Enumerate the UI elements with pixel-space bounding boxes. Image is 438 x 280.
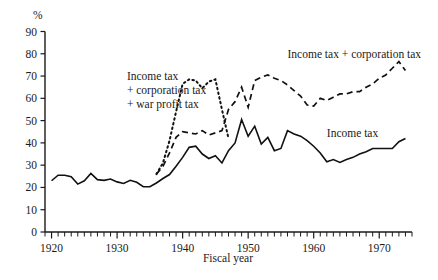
y-tick-label-60: 60 xyxy=(26,92,38,104)
x-tick-label-1940: 1940 xyxy=(171,242,194,254)
y-tick-label-90: 90 xyxy=(26,26,38,38)
y-tick-label-20: 20 xyxy=(26,181,38,193)
series-label-war-profit-line2: + corporation tax xyxy=(127,84,207,97)
chart-figure: 0102030405060708090 19201930194019501960… xyxy=(0,0,438,280)
y-tick-label-10: 10 xyxy=(26,204,38,216)
series-label-income-tax: Income tax xyxy=(327,127,379,139)
y-tick-label-50: 50 xyxy=(26,115,38,127)
y-tick-label-70: 70 xyxy=(26,70,38,82)
y-tick-label-40: 40 xyxy=(26,137,38,149)
series-label-war-profit-line3: + war profit tax xyxy=(127,98,199,111)
series-label-war-profit-line1: Income tax xyxy=(127,70,179,82)
series-income-plus-corporation-tax xyxy=(156,62,405,175)
x-tick-label-1960: 1960 xyxy=(302,242,325,254)
x-tick-label-1930: 1930 xyxy=(106,242,129,254)
x-tick-label-1970: 1970 xyxy=(368,242,391,254)
y-tick-label-80: 80 xyxy=(26,48,38,60)
x-axis-title: Fiscal year xyxy=(203,252,253,265)
line-chart-canvas: 0102030405060708090 19201930194019501960… xyxy=(0,0,438,280)
x-axis-ticks xyxy=(45,232,412,239)
chart-series-group xyxy=(52,62,406,187)
series-annotations: Income tax Income tax + corporation tax … xyxy=(127,48,421,139)
y-tick-label-30: 30 xyxy=(26,159,38,171)
series-label-income-corporation-tax: Income tax + corporation tax xyxy=(288,48,422,61)
y-axis-tick-labels: 0102030405060708090 xyxy=(26,26,38,239)
x-tick-label-1920: 1920 xyxy=(40,242,63,254)
y-tick-label-0: 0 xyxy=(31,226,37,238)
y-axis-unit-label: % xyxy=(33,9,43,21)
